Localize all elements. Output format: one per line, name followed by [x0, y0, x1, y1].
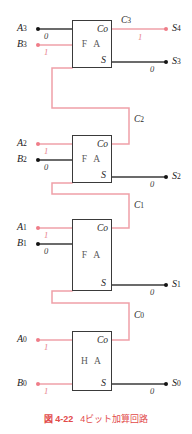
carry-c1-subscript: 1	[140, 201, 144, 210]
input-terminal-b3: B3	[17, 38, 27, 49]
input-terminal-b1: B1	[17, 237, 27, 248]
adder-block-fa-1[interactable]: F A Co S	[72, 219, 112, 291]
carry-out-pin-label: Co	[97, 335, 108, 345]
block-type-label: H A	[73, 356, 111, 366]
block-type-label: F A	[73, 250, 111, 260]
output-terminal-s2: S2	[172, 170, 181, 181]
input-terminal-a1: A1	[17, 221, 27, 232]
value-s3: 0	[150, 64, 154, 74]
value-a2: 1	[44, 146, 48, 156]
value-b1: 0	[44, 246, 48, 256]
input-b2-subscript: 2	[23, 155, 27, 164]
adder-block-fa-2[interactable]: F A Co S	[72, 135, 112, 183]
input-terminal-a3: A3	[17, 22, 27, 33]
sum-pin-label: S	[101, 54, 106, 65]
value-b2: 0	[44, 162, 48, 172]
output-s4-subscript: 4	[177, 24, 181, 33]
adder-block-fa-3[interactable]: F A Co S	[72, 20, 112, 68]
output-s0-subscript: 0	[177, 379, 181, 388]
output-terminal-s3: S3	[172, 55, 181, 66]
terminal-dot-b1[interactable]	[36, 242, 40, 246]
carry-label-c3: C3	[121, 15, 131, 25]
carry-out-pin-label: Co	[97, 139, 108, 149]
carry-out-pin-label: Co	[97, 223, 108, 233]
carry-label-c1: C1	[134, 200, 144, 210]
input-b3-subscript: 3	[23, 40, 27, 49]
carry-c3-subscript: 3	[127, 16, 131, 25]
block-type-label: F A	[73, 154, 111, 164]
input-terminal-b2: B2	[17, 153, 27, 164]
value-a0: 1	[44, 342, 48, 352]
carry-label-c2: C2	[134, 114, 144, 124]
terminal-dot-s1[interactable]	[164, 283, 168, 287]
terminal-dot-a0[interactable]	[36, 338, 40, 342]
block-type-label: F A	[73, 39, 111, 49]
terminal-dot-a1[interactable]	[36, 226, 40, 230]
value-s1: 0	[150, 287, 154, 297]
figure-number: 図 4-22	[44, 414, 74, 424]
carry-c0-subscript: 0	[140, 311, 144, 320]
value-b0: 1	[44, 386, 48, 396]
figure-title: 4ビット加算回路	[80, 414, 148, 424]
terminal-dot-a2[interactable]	[36, 142, 40, 146]
input-a2-subscript: 2	[23, 139, 27, 148]
input-a3-subscript: 3	[23, 24, 27, 33]
terminal-dot-b0[interactable]	[36, 382, 40, 386]
output-terminal-s4: S4	[172, 22, 181, 33]
adder-block-ha-0[interactable]: H A Co S	[72, 331, 112, 391]
value-c3: 1	[138, 32, 142, 42]
sum-pin-label: S	[101, 169, 106, 180]
value-s2: 0	[150, 179, 154, 189]
carry-out-pin-label: Co	[97, 24, 108, 34]
output-terminal-s1: S1	[172, 278, 181, 289]
output-s3-subscript: 3	[177, 57, 181, 66]
input-a1-subscript: 1	[23, 223, 27, 232]
figure-canvas: F A Co S F A Co S F A Co S H A Co S A3 0…	[0, 0, 192, 434]
figure-caption: 図 4-224ビット加算回路	[0, 412, 192, 425]
terminal-dot-b2[interactable]	[36, 158, 40, 162]
input-terminal-a0: A0	[17, 333, 27, 344]
input-b0-subscript: 0	[23, 379, 27, 388]
terminal-dot-b3[interactable]	[36, 43, 40, 47]
terminal-dot-s4[interactable]	[164, 27, 168, 31]
output-s1-subscript: 1	[177, 280, 181, 289]
value-a1: 1	[44, 230, 48, 240]
terminal-dot-a3[interactable]	[36, 27, 40, 31]
value-a3: 0	[44, 31, 48, 41]
sum-pin-label: S	[101, 377, 106, 388]
value-s0: 0	[150, 386, 154, 396]
input-terminal-b0: B0	[17, 377, 27, 388]
carry-label-c0: C0	[134, 310, 144, 320]
input-a0-subscript: 0	[23, 335, 27, 344]
terminal-dot-s2[interactable]	[164, 175, 168, 179]
terminal-dot-s3[interactable]	[164, 60, 168, 64]
terminal-dot-s0[interactable]	[164, 382, 168, 386]
input-b1-subscript: 1	[23, 239, 27, 248]
value-b3: 1	[44, 47, 48, 57]
sum-pin-label: S	[101, 277, 106, 288]
output-s2-subscript: 2	[177, 172, 181, 181]
output-terminal-s0: S0	[172, 377, 181, 388]
wire-carry-c2	[52, 68, 129, 144]
input-terminal-a2: A2	[17, 137, 27, 148]
carry-c2-subscript: 2	[140, 115, 144, 124]
